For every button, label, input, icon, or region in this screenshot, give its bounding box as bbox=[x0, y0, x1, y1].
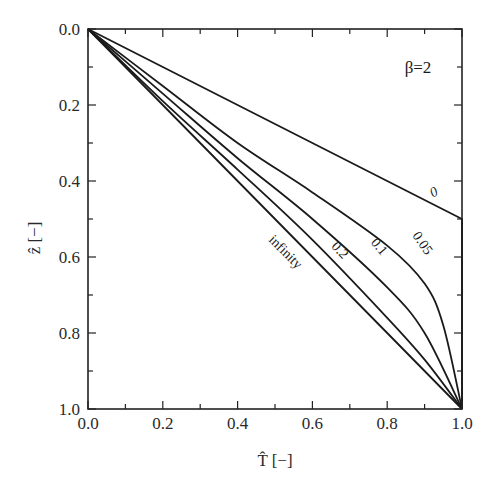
beta-annotation: β=2 bbox=[405, 58, 432, 77]
line-chart: 00.050.10.2infinity 0.00.20.40.60.81.00.… bbox=[0, 0, 495, 494]
y-tick-label: 0.2 bbox=[59, 96, 80, 115]
curve-label: 0 bbox=[427, 184, 440, 201]
axes-ticks: 0.00.20.40.60.81.00.00.20.40.60.81.0 bbox=[59, 20, 473, 433]
x-tick-label: 0.6 bbox=[302, 414, 323, 433]
y-tick-label: 1.0 bbox=[59, 400, 80, 419]
y-tick-label: 0.6 bbox=[59, 248, 80, 267]
x-tick-label: 0.8 bbox=[377, 414, 398, 433]
curve-label: infinity bbox=[266, 232, 306, 272]
curve-labels: 00.050.10.2infinity bbox=[266, 184, 441, 272]
curve-label: 0.05 bbox=[410, 229, 436, 258]
curve-infinity bbox=[88, 29, 462, 409]
x-tick-label: 1.0 bbox=[451, 414, 472, 433]
curve-label: 0.1 bbox=[368, 235, 391, 258]
curve-label: 0.2 bbox=[329, 239, 352, 262]
y-tick-label: 0.0 bbox=[59, 20, 80, 39]
x-tick-label: 0.4 bbox=[227, 414, 249, 433]
x-tick-label: 0.0 bbox=[77, 414, 98, 433]
x-tick-label: 0.2 bbox=[152, 414, 173, 433]
y-axis-label: ẑ [−] bbox=[25, 222, 44, 255]
curves bbox=[88, 29, 462, 409]
x-axis-label: T̂ [−] bbox=[257, 451, 292, 470]
y-tick-label: 0.4 bbox=[59, 172, 81, 191]
y-tick-label: 0.8 bbox=[59, 324, 80, 343]
